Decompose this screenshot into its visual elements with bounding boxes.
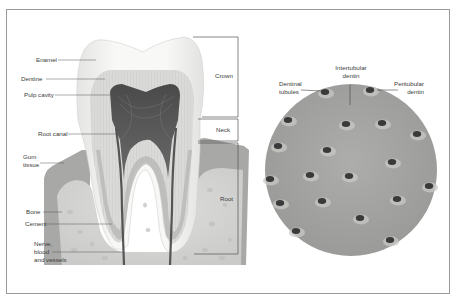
label-nerve-blood-vessels: Nerve, blood and vessels [34,240,67,264]
label-gum-tissue-line2: tissue [23,161,39,168]
label-neck: Neck [216,126,230,134]
label-crown: Crown [215,72,233,80]
label-peritubular-line1: Peritubular [394,80,424,87]
label-intertubular-line1: Intertubular [335,64,366,71]
label-gum-tissue-line1: Gum [23,153,36,160]
dentinal-tubule [425,183,433,189]
label-enamel: Enamel [36,56,57,64]
dentinal-tubule [366,87,374,93]
dentinal-tubule [386,237,394,243]
dentinal-tubule [318,198,326,204]
label-cement: Cement [25,220,47,228]
label-dentinal-tubules: Dentinal tubules [279,80,302,96]
label-nerve-line2: blood [34,248,49,255]
label-intertubular-dentin: Intertubular dentin [327,64,375,80]
label-root: Root [220,195,233,203]
dentinal-tubule [323,147,331,153]
tooth-illustration [0,0,458,305]
dentinal-tubule [292,228,300,234]
label-intertubular-line2: dentin [343,72,360,79]
bone [57,168,243,265]
label-nerve-line1: Nerve, [34,240,52,247]
dentinal-tubule [388,159,396,165]
dentinal-tubule [274,143,282,149]
dentinal-tubule [356,215,364,221]
dentinal-tubule [378,120,386,126]
label-gum-tissue: Gum tissue [23,153,39,169]
label-nerve-line3: and vessels [34,256,67,263]
label-root-canal: Root canal [38,130,68,138]
dentinal-tubule [284,117,292,123]
label-dentine: Dentine [21,75,42,83]
label-peritubular-dentin: Peritubular dentin [380,80,424,96]
dentinal-tubule [321,89,329,95]
label-bone: Bone [26,208,40,216]
dentinal-tubule [413,131,421,137]
label-dentinal-line1: Dentinal [279,80,302,87]
label-dentinal-line2: tubules [279,88,299,95]
dentinal-tubule [345,173,353,179]
label-peritubular-line2: dentin [407,88,424,95]
label-pulp-cavity: Pulp cavity [24,91,54,99]
dentinal-tubule [393,196,401,202]
dentinal-tubule [266,176,274,182]
dentinal-tubule [276,200,284,206]
dentinal-tubule [342,121,350,127]
dentinal-tubule [306,172,314,178]
